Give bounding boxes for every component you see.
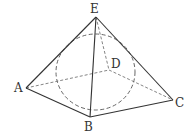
pyramid-diagram: E A B C D [0,0,191,135]
edge-EA [26,17,96,88]
edge-AB [26,88,90,117]
vertex-label-C: C [175,96,184,110]
vertex-label-D: D [111,57,121,71]
vertex-label-B: B [84,120,93,134]
edge-DC [109,70,173,100]
edge-AD [26,70,109,88]
edge-EB [90,17,96,117]
vertex-label-E: E [90,2,99,16]
diagram-canvas: E A B C D [0,0,191,135]
edge-BC [90,100,173,117]
edge-EC [96,17,173,100]
edge-ED [96,17,109,70]
vertex-label-A: A [13,81,23,95]
